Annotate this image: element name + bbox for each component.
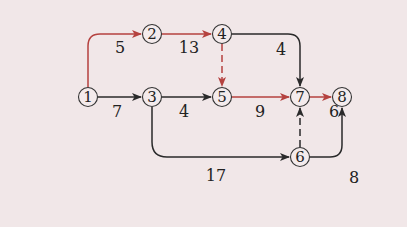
node-label-6: 6: [295, 148, 305, 166]
node-1: 1: [79, 88, 98, 107]
node-8: 8: [333, 88, 352, 107]
node-label-4: 4: [217, 25, 227, 43]
node-label-8: 8: [337, 88, 347, 106]
edge-4-7: [232, 34, 300, 86]
node-3: 3: [143, 88, 162, 107]
edge-label-4-7: 4: [276, 40, 286, 59]
edge-label-1-3: 7: [112, 102, 122, 121]
node-5: 5: [213, 88, 232, 107]
edge-label-5-7: 9: [255, 102, 265, 121]
node-label-5: 5: [217, 88, 227, 106]
node-7: 7: [291, 88, 310, 107]
network-diagram: 5 7 13 4 17 4 9 8 6 1 2 3 4 5 6 7 8: [0, 0, 407, 227]
edge-label-6-8: 8: [349, 168, 359, 187]
node-6: 6: [291, 148, 310, 167]
node-2: 2: [143, 25, 162, 44]
node-label-1: 1: [83, 88, 93, 106]
edge-label-2-4: 13: [179, 38, 199, 57]
edge-label-3-6: 17: [206, 166, 226, 185]
node-4: 4: [213, 25, 232, 44]
node-label-3: 3: [147, 88, 157, 106]
node-label-2: 2: [147, 25, 157, 43]
edge-label-3-5: 4: [179, 102, 189, 121]
node-label-7: 7: [295, 88, 305, 106]
edge-label-1-2: 5: [115, 38, 125, 57]
edge-3-6: [152, 107, 289, 157]
